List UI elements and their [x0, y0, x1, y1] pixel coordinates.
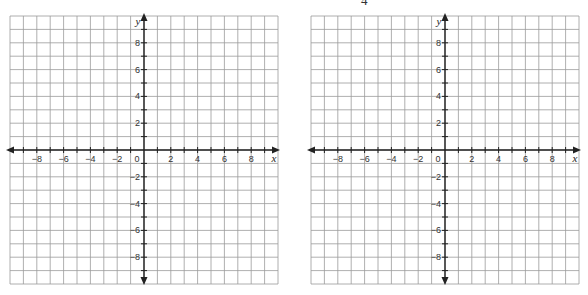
y-tick-label: −2	[431, 172, 441, 182]
y-tick-label: 8	[135, 38, 140, 48]
x-tick-label: −6	[58, 154, 68, 164]
y-tick-label: 4	[135, 91, 140, 101]
top-text-fragment-right: 4	[361, 0, 368, 9]
y-tick-label: −4	[130, 199, 140, 209]
y-tick-label: 6	[436, 65, 441, 75]
coordinate-grid-right[interactable]: −8−6−4−202468x8642−2−4−6−8y	[311, 16, 579, 284]
x-tick-label: −8	[333, 154, 343, 164]
x-tick-label: 0	[134, 154, 139, 164]
y-axis-label: y	[135, 15, 141, 27]
y-tick-label: −8	[431, 252, 441, 262]
y-axis-label: y	[436, 15, 442, 27]
x-tick-label: 6	[523, 154, 528, 164]
x-tick-label: 6	[222, 154, 227, 164]
x-tick-label: −4	[85, 154, 95, 164]
coordinate-grid-left[interactable]: −8−6−4−202468x8642−2−4−6−8y	[10, 16, 278, 284]
x-tick-label: −2	[112, 154, 122, 164]
y-tick-label: −2	[130, 172, 140, 182]
x-axis-label: x	[572, 152, 578, 164]
x-tick-label: 2	[168, 154, 173, 164]
x-tick-label: −2	[413, 154, 423, 164]
y-tick-label: −8	[130, 252, 140, 262]
y-tick-label: −6	[431, 225, 441, 235]
x-tick-label: 8	[249, 154, 254, 164]
y-axis-up-arrow-icon	[141, 13, 148, 21]
y-tick-label: −4	[431, 199, 441, 209]
x-axis: −8−6−4−202468x	[307, 147, 581, 165]
y-axis-up-arrow-icon	[442, 13, 449, 21]
x-tick-label: 0	[435, 154, 440, 164]
x-tick-label: 4	[496, 154, 501, 164]
y-tick-label: 6	[135, 65, 140, 75]
x-tick-label: −8	[32, 154, 42, 164]
x-axis-label: x	[271, 152, 277, 164]
x-axis: −8−6−4−202468x	[6, 147, 280, 165]
x-tick-label: 4	[195, 154, 200, 164]
x-tick-label: 8	[550, 154, 555, 164]
grid-svg: −8−6−4−202468x8642−2−4−6−8y	[311, 16, 579, 284]
y-tick-label: −6	[130, 225, 140, 235]
y-tick-label: 8	[436, 38, 441, 48]
x-tick-label: −6	[359, 154, 369, 164]
grid-svg: −8−6−4−202468x8642−2−4−6−8y	[10, 16, 278, 284]
y-tick-label: 2	[436, 118, 441, 128]
y-tick-label: 2	[135, 118, 140, 128]
x-tick-label: 2	[469, 154, 474, 164]
x-tick-label: −4	[386, 154, 396, 164]
y-tick-label: 4	[436, 91, 441, 101]
